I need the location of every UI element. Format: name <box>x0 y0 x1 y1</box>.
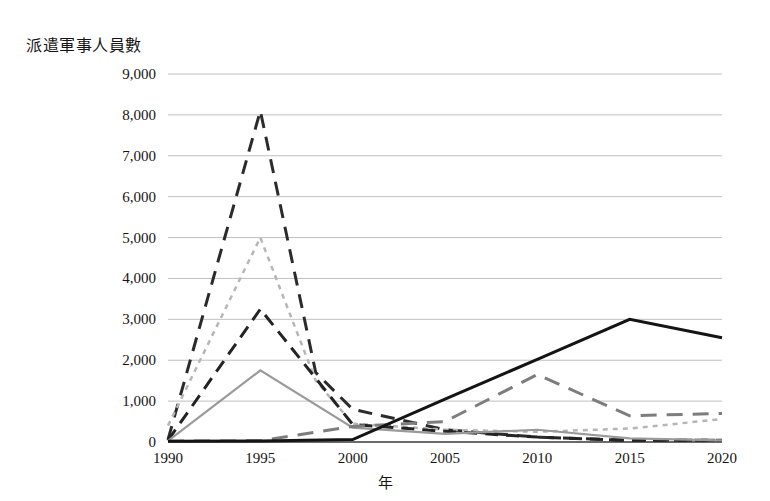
y-tick-label: 5,000 <box>78 229 156 246</box>
y-tick-label: 8,000 <box>78 106 156 123</box>
x-axis-title: 年 <box>0 471 770 492</box>
x-tick-label: 2005 <box>430 450 460 467</box>
y-tick-label: 3,000 <box>78 311 156 328</box>
y-tick-label: 1,000 <box>78 393 156 410</box>
x-tick-label: 1990 <box>153 450 183 467</box>
y-tick-label: 2,000 <box>78 352 156 369</box>
x-axis-tick-labels: 1990199520002005201020152020 <box>0 450 770 470</box>
y-tick-label: 4,000 <box>78 270 156 287</box>
x-tick-label: 2000 <box>338 450 368 467</box>
y-tick-label: 9,000 <box>78 66 156 83</box>
line-chart: 派遣軍事人員數 01,0002,0003,0004,0005,0006,0007… <box>0 0 770 501</box>
y-tick-label: 7,000 <box>78 147 156 164</box>
y-axis-tick-labels: 01,0002,0003,0004,0005,0006,0007,0008,00… <box>0 0 770 501</box>
y-tick-label: 6,000 <box>78 188 156 205</box>
x-tick-label: 2010 <box>522 450 552 467</box>
y-tick-label: 0 <box>78 434 156 451</box>
x-tick-label: 1995 <box>245 450 275 467</box>
x-tick-label: 2020 <box>707 450 737 467</box>
x-tick-label: 2015 <box>615 450 645 467</box>
